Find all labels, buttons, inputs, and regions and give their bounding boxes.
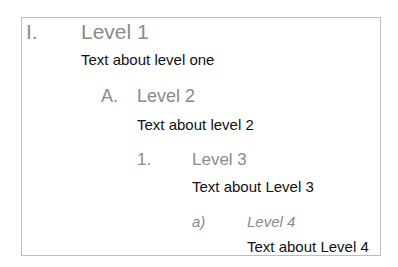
level2-heading: Level 2 <box>137 86 195 107</box>
level3-text: Text about Level 3 <box>192 178 314 195</box>
level2-number: A. <box>101 86 118 107</box>
level4-heading: Level 4 <box>247 213 295 230</box>
level4-text: Text about Level 4 <box>247 238 369 255</box>
level3-heading: Level 3 <box>192 150 247 170</box>
level1-heading: Level 1 <box>81 20 149 44</box>
level4-number: a) <box>192 213 205 230</box>
level2-text: Text about level 2 <box>137 116 254 133</box>
level3-number: 1. <box>137 150 151 170</box>
level1-number: I. <box>26 20 38 44</box>
level1-text: Text about level one <box>81 51 214 68</box>
